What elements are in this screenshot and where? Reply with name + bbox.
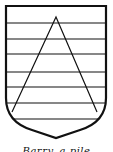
figure-caption: Barry, a pile — [0, 145, 113, 152]
bars — [0, 17, 113, 119]
shield-figure — [0, 0, 113, 152]
pile-triangle — [12, 17, 97, 112]
